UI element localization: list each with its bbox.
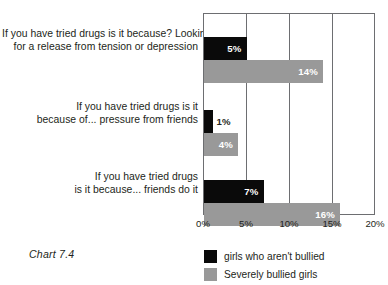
bar-not-bullied-tension-depression: 5%: [204, 37, 247, 60]
legend: girls who aren't bullied Severely bullie…: [204, 249, 324, 285]
category-label-line: for a release from tension or depression: [2, 40, 198, 53]
bar-value-label: 4%: [219, 139, 238, 150]
bar-value-label: 14%: [298, 66, 323, 77]
legend-swatch-severely-bullied: [204, 268, 217, 281]
gridline-10: [289, 14, 290, 214]
plot-area: 5% 14% 1% 4% 7% 16%: [203, 13, 375, 215]
legend-label: girls who aren't bullied: [224, 250, 324, 263]
category-label-line: If you have tried drugs: [2, 170, 198, 183]
category-label-line: If you have tried drugs is it because? L…: [2, 27, 198, 40]
x-tick-label-15: 15%: [322, 218, 341, 229]
category-label-line: is it because... friends do it: [2, 183, 198, 196]
legend-label: Severely bullied girls: [224, 268, 317, 281]
legend-item-severely-bullied: Severely bullied girls: [204, 267, 324, 282]
gridline-15: [332, 14, 333, 214]
category-label-friends-do-it: If you have tried drugs is it because...…: [2, 170, 198, 196]
chart-7-4: If you have tried drugs is it because? L…: [0, 0, 388, 285]
x-tick-label-20: 20%: [365, 218, 384, 229]
chart-caption: Chart 7.4: [29, 248, 74, 260]
bar-severely-bullied-tension-depression: 14%: [204, 60, 323, 83]
x-axis: 0% 5% 10% 15% 20%: [203, 218, 375, 232]
legend-item-not-bullied: girls who aren't bullied: [204, 249, 324, 264]
x-tick-label-10: 10%: [279, 218, 298, 229]
category-label-line: If you have tried drugs is it: [2, 100, 198, 113]
x-tick-label-5: 5%: [239, 218, 253, 229]
bar-value-label: 7%: [244, 186, 263, 197]
bar-severely-bullied-pressure-from-friends: 4%: [204, 133, 238, 156]
x-tick-label-0: 0%: [196, 218, 210, 229]
bar-not-bullied-pressure-from-friends: 1%: [204, 110, 213, 133]
bar-value-label: 1%: [217, 116, 231, 127]
category-label-pressure-from-friends: If you have tried drugs is it because of…: [2, 100, 198, 126]
category-label-tension-depression: If you have tried drugs is it because? L…: [2, 27, 198, 53]
bar-value-label: 5%: [227, 43, 246, 54]
category-label-line: because of... pressure from friends: [2, 113, 198, 126]
bar-not-bullied-friends-do-it: 7%: [204, 180, 264, 203]
legend-swatch-not-bullied: [204, 250, 217, 263]
